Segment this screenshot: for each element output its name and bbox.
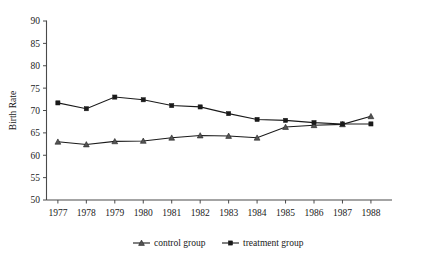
- x-tick-label: 1977: [48, 208, 67, 218]
- data-point-square-marker: [283, 118, 287, 122]
- x-tick-label: 1982: [191, 208, 210, 218]
- y-tick-label: 80: [31, 61, 41, 71]
- legend-item-treatment-group[interactable]: treatment group: [222, 238, 304, 248]
- x-tick-label: 1987: [333, 208, 352, 218]
- series-line-control-group: [58, 116, 371, 144]
- x-axis: 1977197819791980198119821983198419851986…: [47, 200, 393, 218]
- series-layer: [55, 95, 374, 147]
- y-axis-title: Birth Rate: [8, 91, 18, 130]
- data-point-triangle-marker: [368, 113, 374, 118]
- x-tick-label: 1981: [162, 208, 181, 218]
- x-tick-label: 1988: [361, 208, 380, 218]
- legend-square-marker: [228, 241, 232, 245]
- legend-label: control group: [154, 238, 206, 248]
- x-tick-label: 1980: [134, 208, 153, 218]
- y-tick-label: 85: [31, 39, 41, 49]
- x-tick-label: 1985: [276, 208, 295, 218]
- y-tick-label: 55: [31, 173, 41, 183]
- y-axis: 505560657075808590: [31, 16, 47, 205]
- data-point-square-marker: [84, 107, 88, 111]
- data-point-square-marker: [198, 105, 202, 109]
- legend-item-control-group[interactable]: control group: [133, 238, 206, 248]
- data-point-square-marker: [312, 120, 316, 124]
- x-tick-label: 1979: [105, 208, 124, 218]
- y-tick-label: 60: [31, 151, 41, 161]
- data-point-square-marker: [113, 95, 117, 99]
- x-tick-label: 1986: [305, 208, 324, 218]
- legend-label: treatment group: [243, 238, 304, 248]
- data-point-square-marker: [340, 122, 344, 126]
- x-tick-label: 1978: [77, 208, 96, 218]
- x-tick-label: 1984: [248, 208, 267, 218]
- y-tick-label: 50: [31, 195, 41, 205]
- chart-container: 505560657075808590 197719781979198019811…: [0, 0, 432, 259]
- data-point-square-marker: [56, 101, 60, 105]
- y-tick-label: 70: [31, 106, 41, 116]
- line-chart-plot: 505560657075808590 197719781979198019811…: [0, 0, 432, 259]
- chart-legend: control grouptreatment group: [133, 238, 304, 248]
- series-control-group: [55, 113, 374, 146]
- y-tick-label: 75: [31, 84, 41, 94]
- data-point-square-marker: [227, 112, 231, 116]
- y-tick-label: 90: [31, 16, 41, 26]
- data-point-square-marker: [369, 122, 373, 126]
- data-point-square-marker: [255, 117, 259, 121]
- data-point-square-marker: [170, 103, 174, 107]
- series-treatment-group: [56, 95, 373, 126]
- y-axis-title-text: Birth Rate: [8, 91, 18, 130]
- series-line-treatment-group: [58, 97, 371, 124]
- x-tick-label: 1983: [219, 208, 238, 218]
- y-tick-label: 65: [31, 128, 41, 138]
- data-point-square-marker: [141, 98, 145, 102]
